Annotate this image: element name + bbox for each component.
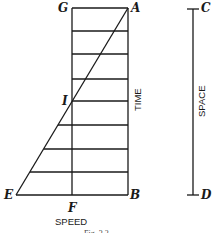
- label-G: G: [58, 1, 68, 15]
- label-D: D: [200, 188, 212, 202]
- mean-speed-diagram: G A I E F B C D TIME SPACE SPEED Fig. 3.…: [0, 0, 216, 233]
- label-F: F: [67, 201, 78, 215]
- label-B: B: [129, 188, 140, 202]
- label-C: C: [201, 1, 211, 15]
- time-axis-label: TIME: [132, 88, 143, 111]
- speed-axis-label: SPEED: [55, 216, 87, 227]
- label-I: I: [61, 94, 68, 108]
- figure-caption: Fig. 3.2: [84, 229, 109, 233]
- space-axis-label: SPACE: [196, 85, 207, 117]
- label-E: E: [3, 188, 14, 202]
- label-A: A: [130, 1, 140, 15]
